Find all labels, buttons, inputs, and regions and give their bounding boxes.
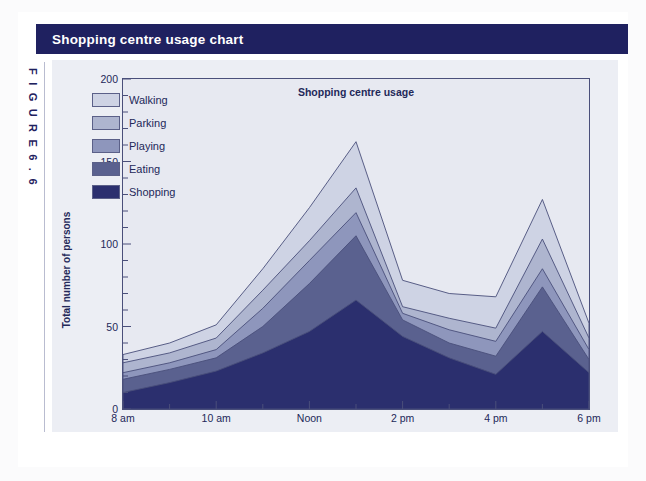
legend-swatch-icon: [92, 185, 120, 199]
chart-title: Shopping centre usage: [122, 86, 590, 98]
legend-item-parking: Parking: [92, 111, 176, 134]
plot-area: [122, 78, 590, 410]
x-axis-tick-label: Noon: [297, 412, 322, 424]
x-axis-tick-label: 2 pm: [391, 412, 414, 424]
y-axis-title: Total number of persons: [58, 180, 74, 360]
y-axis-tick-label: 200: [88, 73, 118, 85]
legend-item-walking: Walking: [92, 88, 176, 111]
chart-panel: Total number of persons 050100150200 Sho…: [52, 60, 618, 432]
legend-item-playing: Playing: [92, 134, 176, 157]
legend-swatch-icon: [92, 116, 120, 130]
chart-legend: WalkingParkingPlayingEatingShopping: [92, 88, 176, 203]
x-axis-tick-label: 6 pm: [577, 412, 600, 424]
legend-label: Walking: [129, 94, 168, 106]
legend-label: Playing: [129, 140, 165, 152]
y-axis-tick-label: 50: [88, 321, 118, 333]
y-axis-title-text: Total number of persons: [61, 212, 72, 329]
legend-label: Parking: [129, 117, 166, 129]
legend-label: Shopping: [129, 186, 176, 198]
legend-swatch-icon: [92, 139, 120, 153]
figure-page: Shopping centre usage chart F I G U R E …: [0, 0, 646, 481]
figure-number-label: F I G U R E 6 . 6: [22, 68, 44, 248]
x-axis-tick-label: 4 pm: [484, 412, 507, 424]
figure-number-text: F I G U R E 6 . 6: [27, 68, 39, 187]
x-axis-tick-label: 10 am: [202, 412, 231, 424]
x-axis-tick-labels: 8 am10 amNoon2 pm4 pm6 pm: [122, 412, 590, 430]
legend-swatch-icon: [92, 162, 120, 176]
figure-header-title: Shopping centre usage chart: [52, 32, 243, 47]
legend-label: Eating: [129, 163, 160, 175]
stacked-area-chart: [123, 79, 589, 409]
figure-divider-rule: [44, 62, 45, 432]
x-axis-tick-label: 8 am: [111, 412, 134, 424]
page-bottom-strip: [52, 432, 618, 456]
legend-item-eating: Eating: [92, 157, 176, 180]
figure-header-bar: Shopping centre usage chart: [36, 24, 628, 54]
legend-swatch-icon: [92, 93, 120, 107]
legend-item-shopping: Shopping: [92, 180, 176, 203]
y-axis-tick-label: 100: [88, 238, 118, 250]
